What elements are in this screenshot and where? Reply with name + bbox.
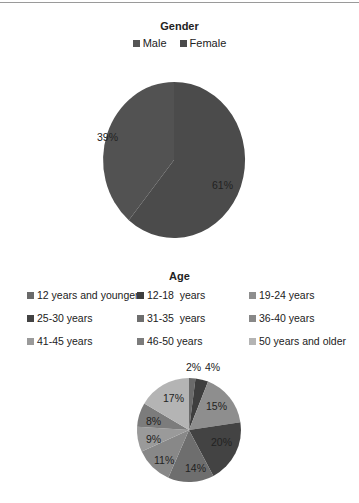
slice-label-11pct: 11% bbox=[154, 454, 174, 466]
legend-swatch bbox=[137, 338, 144, 345]
slice-label-8pct: 8% bbox=[146, 415, 161, 427]
legend-item-50-and-older: 50 years and older bbox=[249, 335, 346, 347]
legend-item-25-30: 25-30 years bbox=[27, 312, 92, 324]
legend-label: 19-24 years bbox=[259, 289, 314, 301]
legend-swatch bbox=[137, 292, 144, 299]
legend-swatch bbox=[249, 338, 256, 345]
legend-label: 25-30 years bbox=[37, 312, 92, 324]
legend-swatch bbox=[27, 338, 34, 345]
legend-swatch bbox=[27, 292, 34, 299]
slice-label-male: 39% bbox=[97, 131, 118, 143]
slice-label-20pct: 20% bbox=[211, 436, 232, 448]
legend-swatch bbox=[249, 292, 256, 299]
legend-label: 46-50 years bbox=[147, 335, 202, 347]
slice-label-15pct: 15% bbox=[206, 400, 227, 412]
slice-label-female: 61% bbox=[212, 179, 233, 191]
legend-label: 12 years and younger bbox=[37, 289, 139, 301]
slice-label-17pct: 17% bbox=[163, 392, 184, 404]
legend-swatch bbox=[137, 315, 144, 322]
charts-canvas: 39% 61% 2% 4% 15% 20% 14% 11% 9% 8% 17% bbox=[0, 0, 359, 503]
legend-label: 36-40 years bbox=[259, 312, 314, 324]
legend-item-36-40: 36-40 years bbox=[249, 312, 314, 324]
legend-item-31-35: 31-35 years bbox=[137, 312, 205, 324]
slice-label-4pct: 4% bbox=[205, 361, 220, 373]
legend-label: 12-18 years bbox=[147, 289, 205, 301]
legend-item-12-and-younger: 12 years and younger bbox=[27, 289, 139, 301]
gender-pie bbox=[103, 82, 245, 238]
age-chart-title: Age bbox=[0, 270, 359, 282]
legend-item-19-24: 19-24 years bbox=[249, 289, 314, 301]
legend-item-41-45: 41-45 years bbox=[27, 335, 92, 347]
legend-swatch bbox=[27, 315, 34, 322]
legend-item-46-50: 46-50 years bbox=[137, 335, 202, 347]
legend-label: 41-45 years bbox=[37, 335, 92, 347]
legend-item-12-18: 12-18 years bbox=[137, 289, 205, 301]
slice-label-9pct: 9% bbox=[146, 433, 161, 445]
slice-label-2pct: 2% bbox=[186, 361, 201, 373]
legend-label: 50 years and older bbox=[259, 335, 346, 347]
legend-swatch bbox=[249, 315, 256, 322]
slice-label-14pct: 14% bbox=[185, 462, 206, 474]
legend-label: 31-35 years bbox=[147, 312, 205, 324]
